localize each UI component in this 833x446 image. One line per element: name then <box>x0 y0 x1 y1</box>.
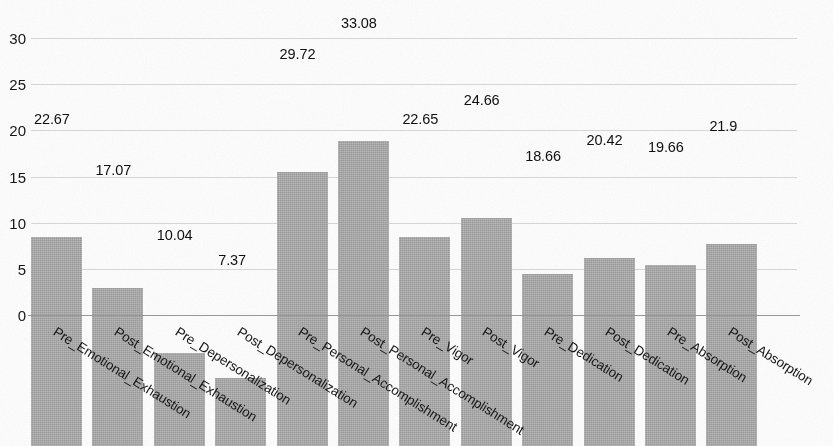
x-label-Post_Vigor: Post_Vigor <box>480 325 542 371</box>
x-axis-category-labels: Pre_Emotional_ExhaustionPost_Emotional_E… <box>0 0 833 446</box>
x-label-Pre_Vigor: Pre_Vigor <box>419 325 476 367</box>
x-axis-baseline <box>28 315 800 316</box>
bar-chart: 051015202530 22.6717.0710.047.3729.7233.… <box>0 0 833 446</box>
